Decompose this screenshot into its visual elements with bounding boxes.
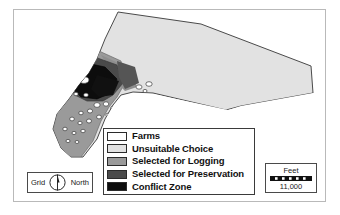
- north-arrow-left-label: Grid: [31, 179, 45, 187]
- legend-swatch-unsuitable-choice: [107, 144, 127, 153]
- scale-bar-graphic: [270, 176, 312, 181]
- map-scale-bar: Feet 11,000: [265, 163, 317, 193]
- legend-swatch-selected-for-logging: [107, 157, 127, 166]
- north-arrow-right-label: North: [71, 179, 89, 187]
- legend-label-conflict-zone: Conflict Zone: [132, 182, 191, 192]
- legend-swatch-selected-for-preservation: [107, 170, 127, 179]
- legend-label-unsuitable-choice: Unsuitable Choice: [132, 144, 213, 154]
- legend-label-selected-for-logging: Selected for Logging: [132, 156, 224, 166]
- scale-bar-value-label: 11,000: [280, 182, 302, 191]
- legend-item-selected-for-preservation[interactable]: Selected for Preservation: [107, 168, 252, 181]
- legend-item-conflict-zone[interactable]: Conflict Zone: [107, 180, 252, 193]
- map-legend: Farms Unsuitable Choice Selected for Log…: [103, 128, 255, 195]
- legend-swatch-farms: [107, 132, 127, 141]
- scale-bar-units-label: Feet: [283, 166, 298, 175]
- compass-needle-icon: [48, 173, 67, 192]
- legend-swatch-conflict-zone: [107, 182, 127, 191]
- map-figure: Farms Unsuitable Choice Selected for Log…: [0, 0, 340, 215]
- legend-item-selected-for-logging[interactable]: Selected for Logging: [107, 155, 252, 168]
- legend-label-farms: Farms: [132, 131, 160, 141]
- legend-item-unsuitable-choice[interactable]: Unsuitable Choice: [107, 143, 252, 156]
- legend-label-selected-for-preservation: Selected for Preservation: [132, 169, 244, 179]
- legend-item-farms[interactable]: Farms: [107, 130, 252, 143]
- grid-north-indicator: Grid North: [27, 172, 93, 193]
